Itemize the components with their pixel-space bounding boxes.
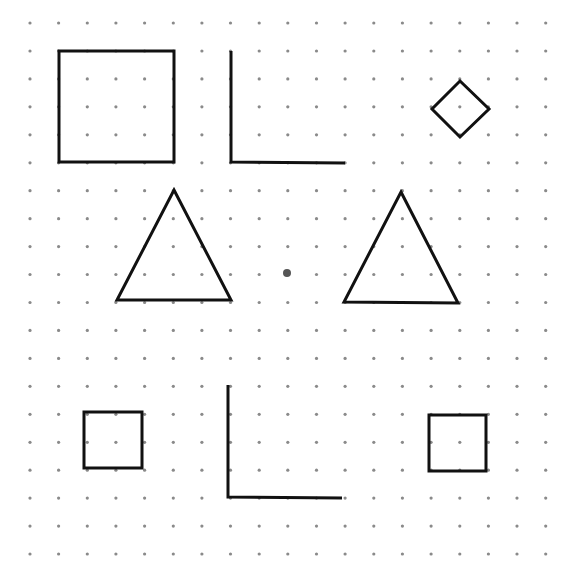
grid-dot — [172, 357, 175, 360]
grid-dot — [57, 413, 60, 416]
grid-dot — [28, 217, 31, 220]
grid-dot — [401, 49, 404, 52]
grid-dot — [57, 441, 60, 444]
grid-dot — [286, 21, 289, 24]
grid-dot — [200, 525, 203, 528]
grid-dot — [114, 77, 117, 80]
grid-dot — [114, 105, 117, 108]
grid-dot — [315, 469, 318, 472]
grid-dot — [458, 161, 461, 164]
grid-dot — [315, 217, 318, 220]
grid-dot — [229, 245, 232, 248]
grid-dot — [344, 469, 347, 472]
grid-dot — [458, 441, 461, 444]
grid-dot — [487, 21, 490, 24]
grid-dot — [515, 497, 518, 500]
grid-dot — [28, 441, 31, 444]
grid-dot — [344, 217, 347, 220]
grid-dot — [401, 525, 404, 528]
grid-dot — [487, 329, 490, 332]
grid-dot — [458, 273, 461, 276]
grid-dot — [372, 133, 375, 136]
grid-dot — [258, 357, 261, 360]
grid-dot — [344, 329, 347, 332]
grid-dot — [286, 385, 289, 388]
grid-dot — [86, 245, 89, 248]
grid-dot — [200, 357, 203, 360]
grid-dot — [401, 497, 404, 500]
grid-dot — [372, 552, 375, 555]
grid-dot — [143, 497, 146, 500]
grid-dot — [315, 133, 318, 136]
grid-dot — [200, 385, 203, 388]
grid-dot — [458, 329, 461, 332]
grid-dot — [28, 133, 31, 136]
grid-dot — [258, 49, 261, 52]
grid-dot — [200, 133, 203, 136]
grid-dot — [544, 105, 547, 108]
grid-dot — [430, 497, 433, 500]
grid-dot — [28, 552, 31, 555]
grid-dot — [200, 189, 203, 192]
grid-dot — [28, 189, 31, 192]
grid-dot — [28, 357, 31, 360]
grid-dot — [86, 105, 89, 108]
grid-dot — [487, 357, 490, 360]
grid-dot — [315, 189, 318, 192]
grid-dot — [315, 273, 318, 276]
grid-dot — [487, 552, 490, 555]
grid-dot — [286, 189, 289, 192]
grid-dot — [487, 497, 490, 500]
grid-dot — [515, 273, 518, 276]
grid-dot — [430, 161, 433, 164]
grid-dot — [401, 469, 404, 472]
grid-dot — [487, 385, 490, 388]
grid-dot — [544, 189, 547, 192]
grid-dot — [515, 21, 518, 24]
grid-dot — [172, 329, 175, 332]
grid-dot — [258, 385, 261, 388]
grid-dot — [401, 21, 404, 24]
grid-dot — [344, 385, 347, 388]
grid-dot — [458, 552, 461, 555]
grid-dot — [86, 77, 89, 80]
grid-dot — [487, 301, 490, 304]
grid-dot — [143, 329, 146, 332]
grid-dot — [430, 21, 433, 24]
grid-dot — [544, 77, 547, 80]
grid-dot — [114, 497, 117, 500]
grid-dot — [401, 245, 404, 248]
grid-dot — [286, 552, 289, 555]
grid-dot — [143, 552, 146, 555]
grid-dot — [28, 161, 31, 164]
grid-dot — [258, 525, 261, 528]
grid-dot — [430, 77, 433, 80]
grid-dot — [515, 413, 518, 416]
grid-dot — [172, 469, 175, 472]
grid-dot — [200, 273, 203, 276]
grid-dot — [57, 245, 60, 248]
grid-dot — [344, 273, 347, 276]
grid-dot — [258, 413, 261, 416]
grid-dot — [344, 525, 347, 528]
grid-dot — [286, 357, 289, 360]
grid-dot — [286, 77, 289, 80]
grid-dot — [172, 413, 175, 416]
grid-dot — [258, 552, 261, 555]
grid-dot — [544, 413, 547, 416]
grid-dot — [458, 497, 461, 500]
grid-dot — [258, 133, 261, 136]
grid-dot — [315, 413, 318, 416]
grid-dot — [57, 301, 60, 304]
grid-dot — [286, 133, 289, 136]
grid-dot — [458, 245, 461, 248]
grid-dot — [286, 301, 289, 304]
grid-dot — [114, 525, 117, 528]
grid-dot — [544, 469, 547, 472]
grid-dot — [229, 329, 232, 332]
grid-dot — [430, 133, 433, 136]
grid-dot — [515, 301, 518, 304]
grid-dot — [544, 329, 547, 332]
grid-dot — [372, 441, 375, 444]
grid-dot — [515, 469, 518, 472]
